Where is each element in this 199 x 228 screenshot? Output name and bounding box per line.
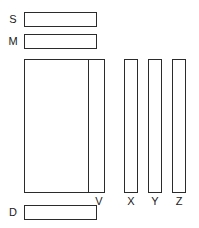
column-label-x: X [124,196,138,207]
column-label-v: V [92,196,106,207]
row-label-s: S [6,14,20,25]
diagram-canvas: S M D V X Y Z [0,0,199,228]
block-d [24,205,97,220]
block-v [88,59,105,193]
block-z [172,59,186,193]
block-m [24,34,97,49]
block-y [148,59,162,193]
row-label-m: M [6,36,20,47]
column-label-z: Z [172,196,186,207]
row-label-d: D [6,207,20,218]
block-main-rectangle [24,59,89,193]
block-x [124,59,138,193]
column-label-y: Y [148,196,162,207]
block-s [24,12,97,27]
